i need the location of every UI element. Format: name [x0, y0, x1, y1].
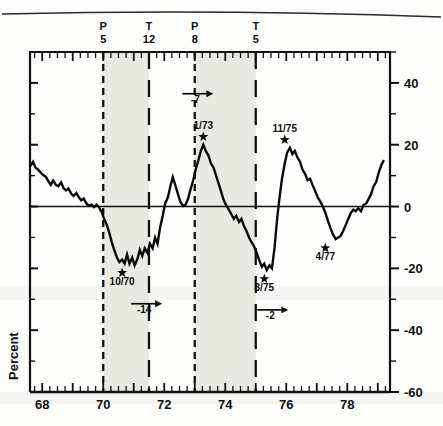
ann-10-70-arrow-head-icon — [155, 300, 162, 307]
x-tick-label-72: 72 — [157, 397, 171, 412]
plot-area: 68707274767840200-20-40-60P5T12P8T510/70… — [30, 20, 423, 412]
ann-10-70-date-label: 10/70 — [110, 276, 135, 287]
ann-3-75-value-label: -2 — [266, 310, 275, 321]
marker-peak-1-letter: P — [100, 20, 107, 32]
ann-1-73-date-label: 1/73 — [194, 120, 214, 131]
y-tick-label--60: -60 — [404, 385, 423, 400]
x-tick-label-78: 78 — [340, 397, 354, 412]
marker-peak-1-number: 5 — [100, 33, 106, 45]
recession-band-2 — [195, 52, 256, 392]
ann-4-77-date-label: 4/77 — [316, 251, 336, 262]
scan-artifact-line — [2, 12, 441, 17]
y-tick-label-20: 20 — [404, 138, 418, 153]
marker-trough-1-number: 12 — [143, 33, 155, 45]
x-tick-label-74: 74 — [218, 397, 233, 412]
y-axis-title: Percent — [6, 332, 21, 380]
ann-11-75-date-label: 11/75 — [273, 123, 298, 134]
x-tick-label-68: 68 — [35, 397, 49, 412]
marker-trough-2-letter: T — [252, 20, 259, 32]
chart-svg: 68707274767840200-20-40-60P5T12P8T510/70… — [0, 0, 443, 426]
y-tick-label--20: -20 — [404, 261, 423, 276]
ann-1-73-value-label: -7 — [191, 94, 200, 105]
ann-3-75-arrow-head-icon — [281, 307, 288, 314]
x-tick-label-70: 70 — [96, 397, 110, 412]
marker-peak-2-number: 8 — [192, 33, 198, 45]
y-tick-label-0: 0 — [404, 200, 411, 215]
chart-figure: 68707274767840200-20-40-60P5T12P8T510/70… — [0, 0, 443, 426]
y-tick-label-40: 40 — [404, 76, 418, 91]
recession-band-1 — [103, 52, 149, 392]
marker-trough-2-number: 5 — [253, 33, 259, 45]
y-tick-label--40: -40 — [404, 323, 423, 338]
ann-10-70-value-label: -14 — [137, 304, 152, 315]
x-tick-label-76: 76 — [279, 397, 293, 412]
ann-11-75-star-icon — [280, 135, 290, 144]
ann-3-75-date-label: 3/75 — [255, 282, 275, 293]
marker-trough-1-letter: T — [146, 20, 153, 32]
marker-peak-2-letter: P — [191, 20, 198, 32]
